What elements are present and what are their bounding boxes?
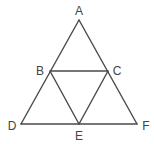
label-D: D <box>8 119 17 133</box>
label-E: E <box>75 129 83 143</box>
segment-BE <box>50 71 79 124</box>
label-F: F <box>142 119 149 133</box>
label-B: B <box>36 64 44 78</box>
label-A: A <box>75 4 83 18</box>
label-C: C <box>113 64 122 78</box>
triangle-diagram: A B C D E F <box>0 0 154 144</box>
segment-CE <box>79 71 108 124</box>
